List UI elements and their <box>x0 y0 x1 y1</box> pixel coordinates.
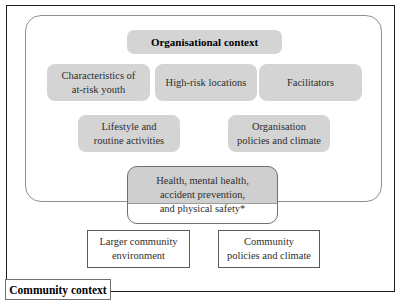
characteristics-of-at-risk-youth-box: Characteristics of at-risk youth <box>47 64 150 101</box>
organisational-context-title-box: Organisational context <box>127 30 282 54</box>
high-risk-locations-box: High-risk locations <box>155 64 257 101</box>
community-policies-and-climate-box: Community policies and climate <box>218 230 320 268</box>
organisation-policies-and-climate-box: Organisation policies and climate <box>228 115 330 152</box>
health-mental-health-box: Health, mental health, accident preventi… <box>127 166 278 224</box>
diagram-canvas: Organisational context Characteristics o… <box>0 0 403 304</box>
community-context-label-box: Community context <box>5 279 111 300</box>
lifestyle-and-routine-activities-box: Lifestyle and routine activities <box>78 115 180 152</box>
larger-community-environment-box: Larger community environment <box>87 230 190 268</box>
facilitators-box: Facilitators <box>259 64 362 101</box>
